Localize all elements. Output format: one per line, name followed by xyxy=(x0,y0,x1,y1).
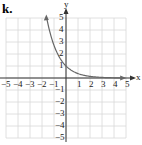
y-tick-label: −1 xyxy=(55,85,65,94)
y-tick-label: 5 xyxy=(59,13,64,22)
y-tick-label: −4 xyxy=(55,121,65,130)
x-axis-label: x xyxy=(136,73,141,82)
y-tick-label: −3 xyxy=(55,109,65,118)
axes xyxy=(0,8,136,142)
x-tick-label: −4 xyxy=(13,80,23,89)
x-tick-label: −2 xyxy=(37,80,47,89)
x-tick-label: 1 xyxy=(77,80,82,89)
x-tick-label: 2 xyxy=(89,80,94,89)
x-tick-label: 4 xyxy=(113,80,118,89)
y-tick-label: 4 xyxy=(59,25,64,34)
y-tick-label: −5 xyxy=(55,133,65,142)
y-tick-label: 1 xyxy=(59,61,64,70)
y-tick-label: 2 xyxy=(59,49,64,58)
x-tick-label: −3 xyxy=(25,80,35,89)
y-axis-label: y xyxy=(64,0,69,9)
x-tick-label: 5 xyxy=(125,80,130,89)
coordinate-plane xyxy=(0,0,142,145)
y-tick-label: −2 xyxy=(55,97,65,106)
y-tick-label: 3 xyxy=(59,37,64,46)
x-tick-label: −5 xyxy=(1,80,11,89)
x-tick-label: 3 xyxy=(101,80,106,89)
